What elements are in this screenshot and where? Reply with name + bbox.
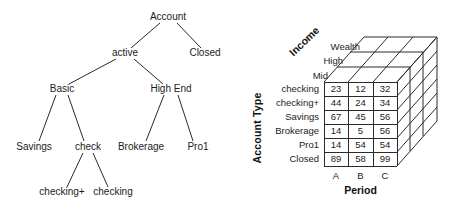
cube-cell: 14	[324, 138, 348, 152]
cube-right-row-slants	[397, 51, 437, 152]
tree-edge-account-closed	[177, 23, 201, 48]
cube-cell: 24	[348, 96, 373, 110]
tree-edge-highend-brokerage	[146, 95, 164, 141]
cube-layer-label-high: High	[295, 55, 343, 66]
tree-node-account: Account	[150, 12, 186, 22]
tree-node-pro1: Pro1	[187, 142, 208, 152]
tree-node-check: check	[75, 142, 101, 152]
cube-row-label-checking: checking	[240, 82, 319, 96]
cube-cell: 12	[348, 82, 373, 96]
cube-col-label-c: C	[373, 170, 397, 182]
cube-row-label-savings: Savings	[240, 110, 319, 124]
cube-layer-label-mid: Mid	[280, 70, 328, 81]
cube-cell: 67	[324, 110, 348, 124]
tree-edge-check-checking	[93, 153, 108, 187]
cube-cell: 14	[324, 124, 348, 138]
tree-edge-basic-check	[68, 95, 84, 141]
tree-edge-highend-pro1	[178, 95, 193, 141]
cube-cell: 45	[348, 110, 373, 124]
tree-node-high-end: High End	[150, 84, 191, 94]
cube-col-label-b: B	[348, 170, 373, 182]
cube-cell: 99	[373, 152, 397, 166]
cube-row-label-brokerage: Brokerage	[240, 124, 319, 138]
cube-row-label-pro1: Pro1	[240, 138, 319, 152]
cube-cell: 56	[373, 110, 397, 124]
tree-node-closed: Closed	[189, 48, 220, 58]
cube-right-face	[397, 37, 437, 166]
tree-node-active: active	[112, 48, 138, 58]
tree-edge-active-highend	[134, 59, 163, 84]
tree-node-checking-plus: checking+	[39, 187, 84, 197]
tree-edge-active-basic	[69, 59, 116, 84]
diagram-canvas: Account active Closed Basic High End Sav…	[0, 0, 453, 212]
tree-node-checking: checking	[93, 187, 132, 197]
cube-cell: 44	[324, 96, 348, 110]
cube-layer-label-wealth: Wealth	[310, 41, 360, 52]
tree-edge-basic-savings	[39, 95, 56, 141]
tree-edge-account-active	[131, 23, 160, 48]
cube-cell: 34	[373, 96, 397, 110]
cube-cell: 5	[348, 124, 373, 138]
cube-cell: 56	[373, 124, 397, 138]
cube-cell: 58	[348, 152, 373, 166]
cube-cell: 54	[348, 138, 373, 152]
cube-cell: 32	[373, 82, 397, 96]
cube-top-depth-lines	[337, 52, 423, 67]
tree-edge-check-checkingplus	[67, 153, 83, 187]
tree-node-savings: Savings	[16, 142, 52, 152]
cube-axis-period: Period	[324, 184, 397, 196]
cube-cell: 89	[324, 152, 348, 166]
cube-row-label-checking-plus: checking+	[240, 96, 319, 110]
cube-cell: 54	[373, 138, 397, 152]
tree-node-basic: Basic	[50, 84, 74, 94]
cube-row-label-closed: Closed	[240, 152, 319, 166]
cube-col-label-a: A	[324, 170, 348, 182]
cube-cell: 23	[324, 82, 348, 96]
tree-node-brokerage: Brokerage	[118, 142, 164, 152]
